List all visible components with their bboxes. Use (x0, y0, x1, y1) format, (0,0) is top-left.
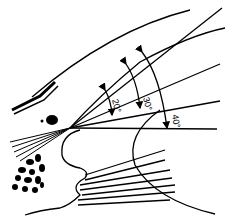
ray-20 (70, 64, 220, 128)
muscle-line (78, 200, 170, 205)
ray-40-horizontal (70, 128, 217, 129)
angle-label-40: 40° (170, 114, 182, 130)
muscle-line (80, 178, 172, 190)
muscle-line (78, 192, 175, 200)
fan-line (12, 128, 70, 147)
arc-40 (142, 52, 167, 128)
upper-curve (32, 10, 190, 97)
angle-diagram: 20° 30° 40° (0, 0, 230, 224)
diagram-canvas: 20° 30° 40° (0, 0, 230, 224)
angle-label-30: 30° (141, 96, 154, 112)
fat-lobules (12, 115, 58, 193)
lid-stripe-2 (14, 86, 58, 114)
front-curve (70, 28, 225, 128)
fan-line (10, 128, 70, 142)
